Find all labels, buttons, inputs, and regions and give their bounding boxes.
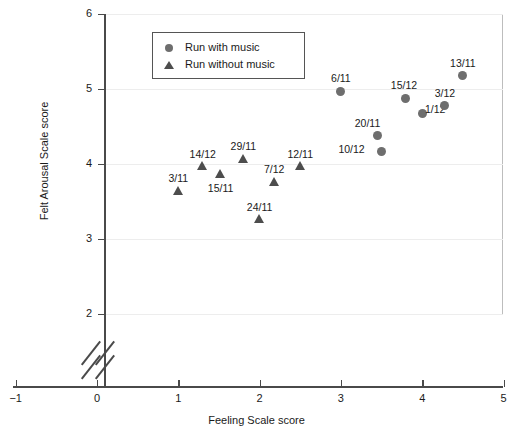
y-tick-label: 2 — [66, 307, 92, 319]
data-point-triangle — [269, 177, 279, 186]
data-point-circle — [336, 87, 345, 96]
y-tick-label: 6 — [66, 7, 92, 19]
y-tick-label: 3 — [66, 232, 92, 244]
y-tick — [98, 14, 105, 15]
y-tick — [98, 314, 105, 315]
x-tick — [16, 380, 17, 387]
gridline — [104, 239, 503, 240]
data-point-circle — [377, 147, 386, 156]
x-tick-label: 0 — [82, 392, 112, 404]
data-point-circle — [458, 71, 467, 80]
x-axis-title: Feeling Scale score — [0, 414, 513, 426]
data-point-label: 7/12 — [258, 163, 290, 175]
data-point-triangle — [197, 161, 207, 170]
x-tick — [178, 380, 179, 387]
data-point-label: 20/11 — [351, 117, 383, 129]
y-tick — [98, 164, 105, 165]
data-point-triangle — [254, 214, 264, 223]
data-point-label: 13/11 — [447, 57, 479, 69]
y-tick-label: 5 — [66, 82, 92, 94]
data-point-label: 24/11 — [244, 201, 276, 213]
data-point-circle — [373, 131, 382, 140]
y-axis-break-icon — [86, 336, 124, 382]
gridline — [104, 14, 503, 15]
y-axis-line — [104, 14, 106, 386]
x-axis-line — [13, 386, 503, 388]
x-tick — [504, 380, 505, 387]
data-point-triangle — [295, 161, 305, 170]
x-tick-label: 4 — [407, 392, 437, 404]
x-tick-label: 3 — [326, 392, 356, 404]
plot-area: 6/1110/1220/1115/121/123/1213/113/1114/1… — [104, 14, 503, 314]
x-tick-label: 1 — [163, 392, 193, 404]
y-tick-label: 4 — [66, 157, 92, 169]
triangle-marker-icon — [164, 61, 174, 69]
gridline — [104, 314, 503, 315]
legend: Run with music Run without music — [152, 32, 305, 79]
x-tick-label: 2 — [245, 392, 275, 404]
data-point-label: 10/12 — [336, 143, 368, 155]
data-point-label: 6/11 — [325, 72, 357, 84]
data-point-label: 3/11 — [162, 172, 194, 184]
x-tick — [260, 380, 261, 387]
x-tick-label: −1 — [1, 392, 31, 404]
data-point-circle — [401, 94, 410, 103]
legend-label-with-music: Run with music — [185, 41, 260, 53]
legend-label-without-music: Run without music — [185, 58, 275, 70]
x-tick — [341, 380, 342, 387]
scatter-plot-figure: 6/1110/1220/1115/121/123/1213/113/1114/1… — [0, 0, 513, 442]
data-point-triangle — [215, 169, 225, 178]
circle-marker-icon — [165, 44, 173, 52]
data-point-label: 15/11 — [205, 182, 237, 194]
y-tick — [98, 239, 105, 240]
y-tick — [98, 89, 105, 90]
data-point-label: 14/12 — [187, 148, 219, 160]
data-point-triangle — [238, 154, 248, 163]
y-axis-title: Felt Arousal Scale score — [38, 81, 50, 241]
x-tick-label: 5 — [489, 392, 513, 404]
data-point-label: 15/12 — [388, 79, 420, 91]
data-point-triangle — [173, 186, 183, 195]
data-point-label: 29/11 — [227, 140, 259, 152]
data-point-label: 12/11 — [284, 148, 316, 160]
x-tick — [422, 380, 423, 387]
data-point-label: 3/12 — [429, 87, 461, 99]
